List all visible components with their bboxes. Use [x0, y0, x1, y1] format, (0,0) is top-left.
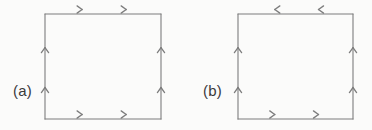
panel-b-bottom-arrowhead-2-barb-1: [313, 111, 318, 115]
panel-b-top-arrowhead-1-barb-1: [275, 10, 280, 14]
panel-b-top-arrowhead-2-barb-1: [319, 10, 324, 14]
panel-a-bottom-arrowhead-1-barb-0: [77, 115, 82, 119]
panel-b-top-arrowhead-2-barb-0: [319, 6, 324, 10]
panel-b-top-arrowhead-1-barb-0: [275, 6, 280, 10]
panel-b-bottom-arrowhead-2: [313, 111, 318, 118]
arrow-loop-diagram: [0, 0, 372, 130]
panel-a-top-arrowhead-1: [77, 6, 82, 13]
panel-a-bottom-arrowhead-1: [77, 111, 82, 118]
panel-a-top-arrowhead-2: [121, 6, 126, 13]
figure-canvas: (a) (b): [0, 0, 372, 130]
panel-a-top-arrowhead-2-barb-1: [121, 6, 126, 10]
panel-b-bottom-arrowhead-1: [270, 111, 275, 118]
panel-a-bottom-arrowhead-2: [121, 111, 126, 118]
panel-a-top-arrowhead-1-barb-0: [77, 10, 82, 14]
panel-a-bottom-arrowhead-1-barb-1: [77, 111, 82, 115]
panel-b-bottom-arrowhead-2-barb-0: [313, 115, 318, 119]
panel-label-b: (b): [203, 82, 222, 99]
panel-a-bottom-arrowhead-2-barb-0: [121, 115, 126, 119]
panel-label-a: (a): [13, 82, 32, 99]
panel-b-bottom-arrowhead-1-barb-0: [270, 115, 275, 119]
panel-b-top-arrowhead-2: [319, 6, 324, 13]
panel-a-bottom-arrowhead-2-barb-1: [121, 111, 126, 115]
panel-a-top-arrowhead-2-barb-0: [121, 10, 126, 14]
panel-a-top-arrowhead-1-barb-1: [77, 6, 82, 10]
panel-b-bottom-arrowhead-1-barb-1: [270, 111, 275, 115]
panel-b-top-arrowhead-1: [275, 6, 280, 13]
